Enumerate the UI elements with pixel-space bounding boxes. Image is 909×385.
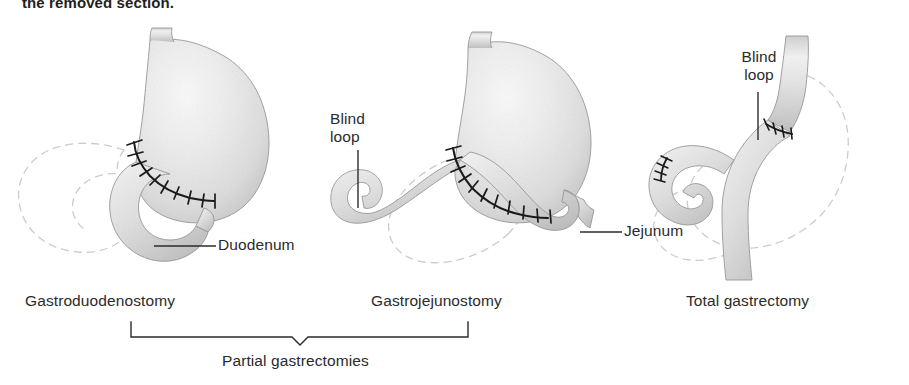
stomach-remnant-1 — [135, 39, 269, 223]
medical-illustration-gastrectomy-types: the removed section. — [0, 0, 909, 385]
label-blind-loop-line2: loop — [330, 128, 360, 145]
label-duodenum: Duodenum — [218, 236, 295, 254]
label-blind-loop-f3-line2: loop — [744, 66, 774, 83]
caption-gastrojejunostomy: Gastrojejunostomy — [371, 292, 502, 310]
label-blind-loop-line1: Blind — [330, 110, 365, 127]
figure-gastroduodenostomy — [19, 28, 269, 261]
esophagus-stub-1 — [150, 28, 174, 42]
jejunum-blind-loop-3 — [649, 146, 734, 225]
caption-gastroduodenostomy: Gastroduodenostomy — [25, 292, 175, 310]
figure-gastrojejunostomy — [331, 32, 622, 263]
partial-gastrectomies-bracket — [131, 322, 468, 345]
jejunum-anastomosis-3 — [722, 120, 790, 280]
esophagus-stub-2 — [468, 32, 492, 48]
label-blind-loop-f3-line1: Blind — [742, 48, 777, 65]
jejunum-loop-2 — [331, 160, 460, 223]
label-blind-loop-figure2: Blind loop — [330, 110, 365, 147]
label-jejunum: Jejunum — [624, 222, 683, 240]
label-blind-loop-figure3: Blind loop — [733, 48, 785, 85]
caption-total-gastrectomy: Total gastrectomy — [686, 292, 809, 310]
bracket-label-partial-gastrectomies: Partial gastrectomies — [222, 352, 369, 370]
